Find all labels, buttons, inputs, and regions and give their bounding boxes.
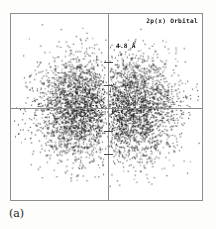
panel-caption: (a) (9, 207, 24, 220)
horizontal-axis-line (11, 108, 202, 109)
orbital-figure: 4.8 Å 2p(x) Orbital (a) (0, 0, 216, 229)
axis-tick-upper-inner (104, 85, 113, 86)
electron-density-dot-cloud (11, 14, 202, 200)
axis-tick-upper-outer (104, 62, 113, 63)
scale-label: 4.8 Å (116, 42, 136, 49)
orbital-title-label: 2p(x) Orbital (146, 17, 198, 24)
vertical-axis-line (108, 14, 109, 200)
axis-tick-lower-outer (104, 154, 113, 155)
plot-frame: 4.8 Å 2p(x) Orbital (10, 13, 203, 201)
axis-tick-lower-inner (104, 131, 113, 132)
